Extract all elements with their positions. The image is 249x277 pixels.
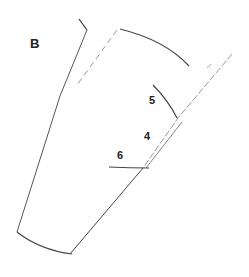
right-outline-line-double xyxy=(146,122,182,168)
marker-line-5 xyxy=(153,85,177,118)
label-4: 4 xyxy=(144,131,150,142)
bottom-curve xyxy=(17,232,72,254)
right-outline-line-upper xyxy=(143,54,232,168)
left-outline-line xyxy=(17,30,87,232)
inner-dashed-line xyxy=(77,30,117,85)
faint-mark xyxy=(207,64,211,68)
left-outline-line xyxy=(79,19,87,30)
label-6: 6 xyxy=(117,150,123,161)
top-arc xyxy=(120,29,189,66)
right-outline-line-lower xyxy=(70,168,143,254)
label-5: 5 xyxy=(149,95,155,106)
panel-label: B xyxy=(30,37,39,50)
